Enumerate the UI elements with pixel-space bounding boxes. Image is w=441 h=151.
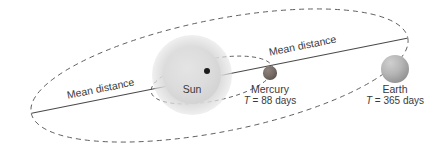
earth-disc (381, 55, 409, 83)
orbit-focus-dot (204, 68, 210, 74)
earth-period-label: T = 365 days (352, 96, 438, 107)
mercury-disc (263, 66, 277, 80)
earth-label: Earth (355, 84, 435, 95)
earth-continents-icon (381, 55, 409, 83)
mercury-period-value: = 88 days (250, 95, 296, 106)
sun-label: Sun (163, 84, 221, 95)
mercury-period-label: T = 88 days (230, 96, 310, 107)
mercury-label: Mercury (230, 84, 310, 95)
earth-period-value: = 365 days (372, 95, 424, 106)
sun-disc (163, 46, 221, 104)
orbit-diagram: Mean distance Mean distance Sun Mercury … (0, 0, 441, 151)
